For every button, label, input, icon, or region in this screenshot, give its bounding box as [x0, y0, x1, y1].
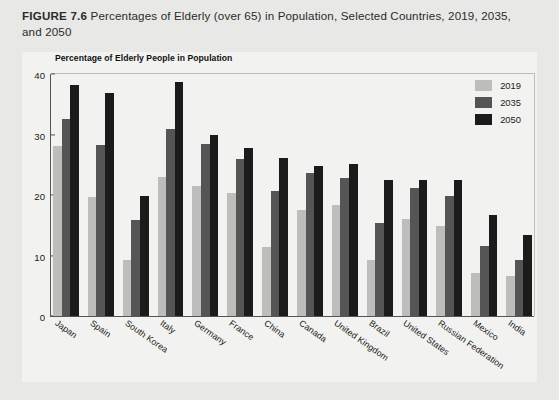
x-axis-label: Mexico [471, 318, 500, 343]
x-axis-label: Brazil [367, 318, 391, 339]
y-axis-tick-label: 40 [34, 70, 51, 81]
bar-2050 [419, 180, 428, 316]
y-axis-tick: 10 [34, 247, 51, 265]
y-axis-tick-label: 20 [34, 191, 51, 202]
bar-group [123, 74, 149, 316]
bar-2035 [306, 173, 315, 316]
x-axis-label: France [227, 318, 256, 342]
bar-2050 [523, 235, 532, 316]
figure-container: FIGURE 7.6 Percentages of Elderly (over … [0, 0, 559, 400]
bar-group [436, 74, 462, 316]
bar-2035 [96, 145, 105, 316]
x-axis-label: Italy [158, 318, 177, 336]
bar-2035 [410, 188, 419, 316]
bar-group [192, 74, 218, 316]
bar-2050 [384, 180, 393, 316]
bar-2050 [244, 148, 253, 316]
bar-2019 [192, 186, 201, 316]
bar-2050 [279, 158, 288, 316]
legend-swatch [475, 97, 492, 108]
x-axis-label: India [506, 318, 528, 337]
bar-2019 [471, 273, 480, 316]
y-axis-tick: 40 [34, 65, 51, 83]
x-axis-labels: JapanSpainSouth KoreaItalyGermanyFranceC… [50, 318, 533, 382]
bar-2035 [340, 178, 349, 316]
bar-group [262, 74, 288, 316]
bar-2019 [367, 260, 376, 316]
y-axis-tick: 30 [34, 126, 51, 144]
figure-number: FIGURE 7.6 [22, 9, 87, 22]
chart-legend: 201920352050 [475, 80, 521, 125]
bar-2019 [123, 260, 132, 316]
bar-2035 [201, 144, 210, 316]
legend-label: 2019 [500, 80, 521, 91]
bar-2050 [175, 82, 184, 316]
bar-2019 [53, 146, 62, 316]
bar-2035 [166, 129, 175, 316]
plot-area: 010203040 [50, 74, 534, 317]
bar-2019 [402, 219, 411, 316]
bar-2050 [349, 164, 358, 316]
legend-label: 2050 [500, 114, 521, 125]
legend-item: 2050 [475, 114, 521, 125]
y-axis-tick: 20 [34, 186, 51, 204]
x-axis-label: Spain [88, 318, 113, 339]
bar-group [367, 74, 393, 316]
chart-panel: Percentage of Elderly People in Populati… [22, 52, 537, 382]
legend-swatch [475, 114, 492, 125]
bar-2019 [297, 210, 306, 316]
bar-2035 [236, 159, 245, 316]
chart-axis-title: Percentage of Elderly People in Populati… [55, 53, 232, 63]
x-axis-label: Germany [193, 318, 229, 347]
bar-groups [51, 74, 534, 316]
bar-group [227, 74, 253, 316]
bar-2035 [271, 191, 280, 316]
x-axis-label: China [262, 318, 287, 340]
bar-group [53, 74, 79, 316]
figure-caption-text: Percentages of Elderly (over 65) in Popu… [22, 9, 511, 38]
bar-2050 [140, 196, 149, 316]
bar-group [158, 74, 184, 316]
y-axis-tick-label: 30 [34, 131, 51, 142]
bar-2050 [489, 215, 498, 316]
bar-2050 [210, 135, 219, 316]
x-axis-label: Canada [297, 318, 328, 344]
bar-2035 [515, 260, 524, 316]
x-axis-label: Japan [53, 318, 79, 340]
bar-group [332, 74, 358, 316]
legend-label: 2035 [500, 97, 521, 108]
bar-2035 [480, 246, 489, 316]
legend-swatch [475, 80, 492, 91]
bar-2035 [445, 196, 454, 316]
bar-group [297, 74, 323, 316]
bar-2050 [314, 166, 323, 316]
bar-2035 [62, 119, 71, 316]
legend-item: 2019 [475, 80, 521, 91]
bar-2019 [332, 205, 341, 316]
bar-2050 [105, 93, 114, 316]
legend-item: 2035 [475, 97, 521, 108]
bar-2019 [262, 247, 271, 316]
bar-2019 [88, 197, 97, 316]
bar-2035 [375, 223, 384, 316]
bar-2019 [506, 276, 515, 316]
bar-2019 [158, 177, 167, 316]
bar-group [88, 74, 114, 316]
bar-group [402, 74, 428, 316]
bar-2050 [454, 180, 463, 316]
figure-caption: FIGURE 7.6 Percentages of Elderly (over … [22, 8, 532, 39]
bar-2050 [70, 85, 79, 316]
bar-2035 [131, 220, 140, 316]
y-axis-tick-label: 10 [34, 252, 51, 263]
bar-2019 [227, 193, 236, 316]
bar-2019 [436, 226, 445, 316]
